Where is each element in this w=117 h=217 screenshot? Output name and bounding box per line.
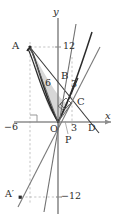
geometry-figure: y x 12 −12 −6 3 A A′ B C D P O 6 3 bbox=[0, 0, 117, 217]
tick-label-y-12: 12 bbox=[63, 41, 75, 51]
point-marker-A bbox=[28, 45, 31, 48]
y-axis-label: y bbox=[53, 7, 59, 17]
point-label-A: A bbox=[12, 41, 19, 51]
segment-label-six: 6 bbox=[45, 78, 51, 88]
point-label-A-prime: A′ bbox=[5, 189, 14, 199]
point-label-D: D bbox=[88, 123, 96, 133]
tick-label-x-minus-6: −6 bbox=[4, 122, 18, 132]
point-label-O: O bbox=[50, 124, 58, 134]
point-label-B: B bbox=[61, 71, 68, 81]
leader-P bbox=[65, 121, 68, 134]
line-OP bbox=[44, 24, 76, 212]
figure-canvas bbox=[0, 0, 117, 217]
line-AD bbox=[29, 46, 99, 133]
point-label-C: C bbox=[77, 97, 85, 107]
tick-label-y-minus-12: −12 bbox=[61, 191, 81, 201]
segment-AO bbox=[30, 47, 58, 122]
tick-label-x-3: 3 bbox=[71, 123, 77, 133]
x-axis-label: x bbox=[105, 111, 111, 121]
point-marker-A-prime bbox=[19, 196, 22, 199]
point-label-P: P bbox=[65, 135, 71, 145]
segment-label-three: 3 bbox=[71, 79, 77, 89]
right-angle-marker-origin-foot bbox=[30, 115, 37, 122]
